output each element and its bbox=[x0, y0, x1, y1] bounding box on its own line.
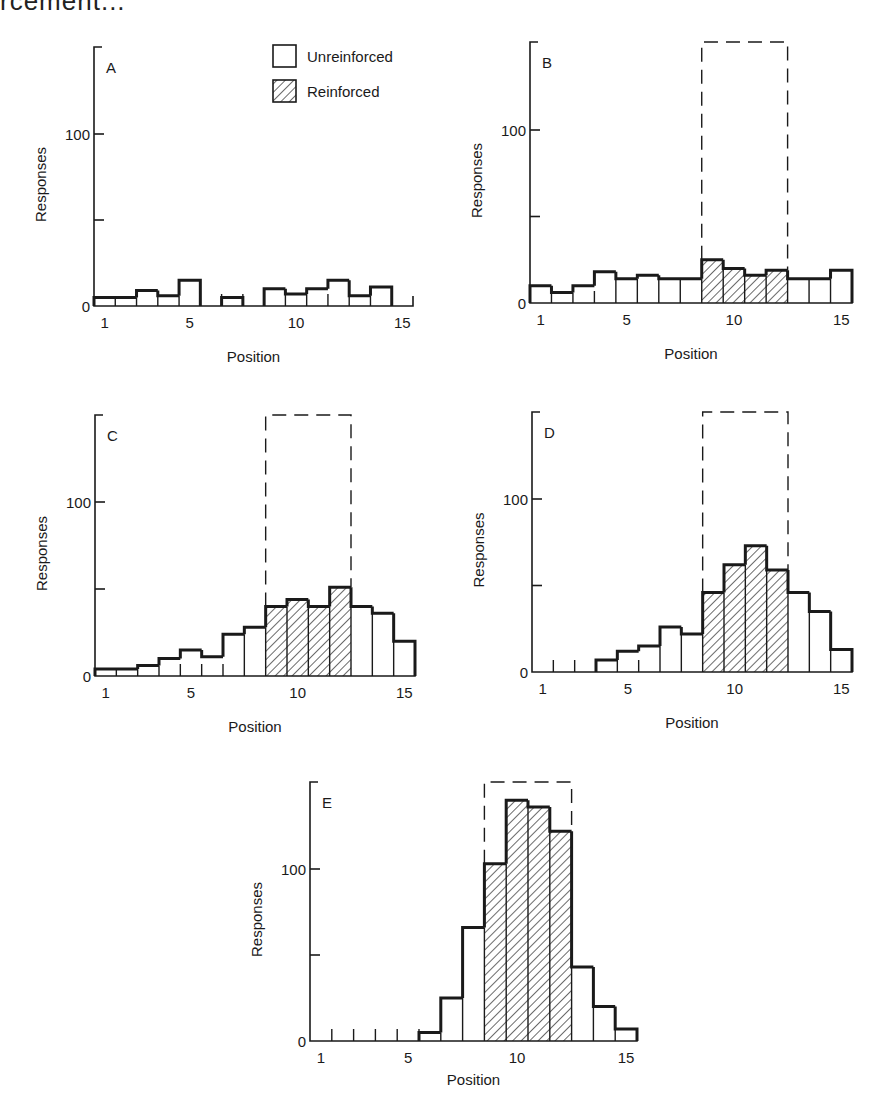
histogram-figure: Unreinforced Reinforced 0100151015Positi… bbox=[0, 0, 883, 1120]
y-axis-title: Responses bbox=[468, 143, 485, 218]
x-tick-label: 10 bbox=[289, 684, 306, 701]
x-tick-label: 5 bbox=[622, 311, 630, 328]
reinforced-range-box bbox=[266, 415, 351, 606]
histogram-outline bbox=[95, 587, 415, 676]
y-axis-title: Responses bbox=[33, 516, 50, 591]
panel-letter: A bbox=[106, 59, 116, 76]
legend: Unreinforced Reinforced bbox=[273, 45, 393, 102]
y-tick-label-100: 100 bbox=[281, 861, 306, 878]
panel-e: 0100151015PositionResponsesE bbox=[248, 782, 637, 1088]
reinforced-swatch-icon bbox=[273, 80, 296, 102]
x-tick-label: 10 bbox=[288, 314, 305, 331]
y-axis-title: Responses bbox=[248, 882, 265, 957]
panel-letter: D bbox=[544, 424, 555, 441]
x-tick-label: 15 bbox=[618, 1049, 635, 1066]
x-tick-label: 15 bbox=[833, 311, 850, 328]
panel-b: 0100151015PositionResponsesB bbox=[468, 42, 852, 362]
x-axis-title: Position bbox=[227, 348, 280, 365]
y-tick-label-100: 100 bbox=[65, 126, 90, 143]
x-tick-label: 5 bbox=[404, 1049, 412, 1066]
histogram-outline bbox=[94, 280, 392, 306]
axes bbox=[310, 782, 637, 1041]
unreinforced-swatch-icon bbox=[273, 45, 296, 67]
x-tick-label: 15 bbox=[396, 684, 413, 701]
x-tick-label: 1 bbox=[537, 311, 545, 328]
y-tick-label-0: 0 bbox=[83, 668, 91, 685]
x-axis-title: Position bbox=[665, 714, 718, 731]
panel-letter: B bbox=[542, 54, 552, 71]
x-tick-label: 10 bbox=[726, 680, 743, 697]
x-tick-label: 10 bbox=[726, 311, 743, 328]
x-tick-label: 1 bbox=[538, 680, 546, 697]
reinforced-range-box bbox=[702, 42, 788, 270]
x-tick-label: 1 bbox=[101, 684, 109, 701]
y-tick-label-100: 100 bbox=[501, 122, 526, 139]
y-tick-label-0: 0 bbox=[520, 664, 528, 681]
axes bbox=[95, 415, 415, 676]
x-tick-label: 1 bbox=[317, 1049, 325, 1066]
legend-reinforced-label: Reinforced bbox=[307, 83, 380, 100]
x-axis-title: Position bbox=[228, 718, 281, 735]
x-tick-label: 1 bbox=[100, 314, 108, 331]
y-tick-label-0: 0 bbox=[82, 298, 90, 315]
panel-d: 0100151015PositionResponsesD bbox=[470, 412, 852, 731]
y-tick-label-0: 0 bbox=[518, 295, 526, 312]
y-axis-title: Responses bbox=[470, 512, 487, 587]
x-axis-title: Position bbox=[664, 345, 717, 362]
x-tick-label: 15 bbox=[833, 680, 850, 697]
x-tick-label: 5 bbox=[187, 684, 195, 701]
x-tick-label: 5 bbox=[186, 314, 194, 331]
x-tick-label: 5 bbox=[624, 680, 632, 697]
axes bbox=[530, 42, 852, 303]
panel-letter: E bbox=[322, 794, 332, 811]
y-axis-title: Responses bbox=[32, 147, 49, 222]
panel-letter: C bbox=[107, 427, 118, 444]
x-tick-label: 10 bbox=[509, 1049, 526, 1066]
x-axis-title: Position bbox=[447, 1071, 500, 1088]
y-tick-label-100: 100 bbox=[503, 491, 528, 508]
histogram-outline bbox=[530, 260, 852, 303]
y-tick-label-0: 0 bbox=[298, 1033, 306, 1050]
legend-unreinforced-label: Unreinforced bbox=[307, 48, 393, 65]
x-tick-label: 15 bbox=[394, 314, 411, 331]
panel-c: 0100151015PositionResponsesC bbox=[33, 415, 415, 735]
y-tick-label-100: 100 bbox=[66, 494, 91, 511]
